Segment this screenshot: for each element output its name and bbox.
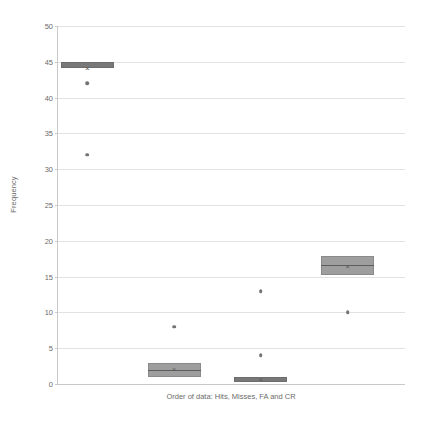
y-axis-tick-mark	[55, 348, 58, 349]
y-axis-tick-mark	[55, 384, 58, 385]
y-axis-tick-label: 20	[45, 236, 53, 245]
y-axis-tick-label: 10	[45, 308, 53, 317]
y-axis-tick-label: 45	[45, 57, 53, 66]
outlier-point	[259, 354, 263, 358]
y-axis-tick-label: 5	[49, 344, 53, 353]
y-axis-tick-mark	[55, 169, 58, 170]
y-axis-tick-mark	[55, 205, 58, 206]
y-axis-tick-label: 35	[45, 129, 53, 138]
y-axis-tick-mark	[55, 62, 58, 63]
outlier-point	[172, 325, 176, 329]
gridline	[58, 26, 405, 27]
x-axis-title: Order of data: Hits, Misses, FA and CR	[57, 392, 405, 401]
outlier-point	[86, 81, 90, 85]
gridline	[58, 205, 405, 206]
y-axis-tick-label: 30	[45, 165, 53, 174]
gridline	[58, 277, 405, 278]
y-axis-tick-mark	[55, 98, 58, 99]
mean-marker-fa: ×	[259, 376, 264, 384]
y-axis-tick-mark	[55, 133, 58, 134]
y-axis-tick-mark	[55, 277, 58, 278]
y-axis-tick-label: 40	[45, 93, 53, 102]
plot-area: 05101520253035404550××××	[57, 26, 405, 385]
gridline	[58, 133, 405, 134]
mean-marker-hits: ×	[85, 65, 90, 73]
mean-marker-cr: ×	[345, 263, 350, 271]
y-axis-tick-mark	[55, 26, 58, 27]
gridline	[58, 312, 405, 313]
outlier-point	[259, 289, 263, 293]
box-plot-chart: Frequency 05101520253035404550×××× Order…	[0, 0, 439, 426]
outlier-point	[86, 153, 90, 157]
y-axis-tick-label: 0	[49, 380, 53, 389]
outlier-point	[346, 311, 350, 315]
gridline	[58, 169, 405, 170]
y-axis-tick-label: 15	[45, 272, 53, 281]
gridline	[58, 98, 405, 99]
y-axis-tick-label: 25	[45, 201, 53, 210]
y-axis-tick-mark	[55, 312, 58, 313]
y-axis-tick-label: 50	[45, 22, 53, 31]
y-axis-tick-mark	[55, 241, 58, 242]
gridline	[58, 241, 405, 242]
mean-marker-misses: ×	[172, 366, 177, 374]
y-axis-title: Frequency	[9, 165, 18, 225]
gridline	[58, 348, 405, 349]
